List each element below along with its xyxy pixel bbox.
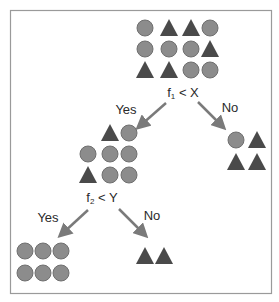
left-yes-label: Yes (37, 210, 59, 225)
root-yes-label: Yes (115, 102, 137, 117)
circle-sample (202, 20, 218, 36)
circle-sample (137, 20, 153, 36)
circle-sample (53, 243, 69, 259)
circle-sample (35, 243, 51, 259)
circle-sample (17, 243, 33, 259)
circle-sample (35, 265, 51, 281)
circle-sample (80, 146, 96, 162)
circle-sample (202, 62, 218, 78)
circle-sample (228, 132, 244, 148)
root-no-label: No (222, 100, 239, 115)
circle-sample (121, 167, 137, 183)
circle-sample (102, 167, 118, 183)
circle-sample (121, 146, 137, 162)
circle-sample (53, 265, 69, 281)
circle-sample (183, 62, 199, 78)
circle-sample (137, 41, 153, 57)
circle-sample (102, 146, 118, 162)
circle-sample (17, 265, 33, 281)
left-no-label: No (144, 208, 161, 223)
decision-tree-diagram: f1 < X Yes No f2 < Y Yes No (0, 0, 279, 302)
circle-sample (161, 41, 177, 57)
circle-sample (121, 125, 137, 141)
circle-sample (183, 41, 199, 57)
